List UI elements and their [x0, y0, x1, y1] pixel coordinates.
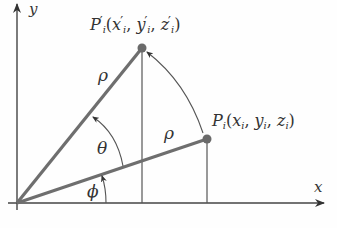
p-x: x [232, 111, 241, 130]
radius-line-p [17, 139, 207, 203]
point-p-prime [138, 44, 147, 53]
p-sep-1: , [244, 111, 254, 130]
p-close-paren: ) [289, 111, 295, 130]
y-axis-label: y [29, 2, 37, 17]
point-p-prime-label: P′i(x′i, y′i, z′i) [90, 16, 180, 35]
x-axis-label: x [314, 180, 322, 195]
p-y: y [255, 111, 264, 130]
rotation-arc [147, 52, 203, 133]
p-name: P [212, 111, 223, 130]
p-sep-2: , [267, 111, 277, 130]
p-prime-close-paren: ) [174, 15, 180, 34]
p-prime-sep-2: , [151, 15, 161, 34]
rho-label-upper: ρ [98, 67, 108, 84]
phi-label: ϕ [87, 183, 99, 200]
phi-arc [102, 176, 106, 203]
point-p-label: Pi(xi, yi, zi) [212, 113, 295, 131]
rho-label-lower: ρ [164, 125, 174, 142]
radius-line-p-prime [17, 48, 142, 203]
p-prime-sep-1: , [126, 15, 136, 34]
point-p [203, 135, 212, 144]
rotation-diagram: y x P′i(x′i, y′i, z′i) Pi(xi, yi, zi) ρ … [0, 0, 337, 228]
theta-label: θ [97, 140, 107, 157]
